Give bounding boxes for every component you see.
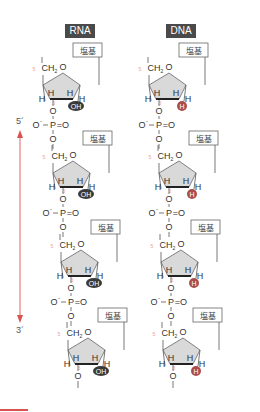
hydrogen-label: H xyxy=(73,353,80,363)
arrow-down-icon xyxy=(17,315,23,323)
hydrogen-label: H xyxy=(66,265,73,275)
ch2-subscript: 2 xyxy=(65,156,68,162)
oxygen-label: O xyxy=(167,283,174,293)
hydrogen-label: H xyxy=(49,182,56,192)
hydrogen-label: H xyxy=(154,88,161,98)
phosphorus-label: P xyxy=(168,297,174,307)
three-prime-label: 3´ xyxy=(16,325,24,335)
oxygen-label: O xyxy=(155,106,162,116)
five-prime-label: 5´ xyxy=(16,116,24,126)
h-label: H xyxy=(179,103,184,110)
ring-oxygen-label: O xyxy=(179,327,186,337)
phosphorus-label: P xyxy=(60,208,66,218)
hydrogen-label: H xyxy=(77,176,84,186)
minus-sign: - xyxy=(40,118,42,124)
h-label: H xyxy=(191,280,196,287)
carbon-5-label: 5 xyxy=(33,66,36,72)
o-minus-label: O xyxy=(42,208,49,218)
phosphorus-label: P xyxy=(68,297,74,307)
carbon-5-label: 5 xyxy=(51,243,54,249)
oh-label: OH xyxy=(81,191,92,198)
hydrogen-label: H xyxy=(57,271,64,281)
ch2-subscript: 2 xyxy=(161,68,164,74)
ch2-subscript: 2 xyxy=(171,156,174,162)
base-label: 塩基 xyxy=(80,46,96,56)
o-minus-label: O xyxy=(32,120,39,130)
oxygen-label: O xyxy=(49,134,56,144)
hydrogen-label: H xyxy=(48,88,55,98)
oxygen-label: O xyxy=(155,134,162,144)
double-oxygen-label: =O xyxy=(163,120,175,130)
phosphorus-label: P xyxy=(156,120,162,130)
hydrogen-label: H xyxy=(155,182,162,192)
hydrogen-label: H xyxy=(145,94,152,104)
o-minus-label: O xyxy=(148,208,155,218)
o-minus-label: O xyxy=(138,120,145,130)
hydrogen-label: H xyxy=(173,88,180,98)
base-label: 塩基 xyxy=(198,223,214,233)
oxygen-label: O xyxy=(59,222,66,232)
base-label: 塩基 xyxy=(90,134,106,144)
minus-sign: - xyxy=(146,118,148,124)
ch2-label: CH xyxy=(60,240,73,250)
oxygen-label: O xyxy=(74,371,81,381)
o-minus-label: O xyxy=(50,297,57,307)
arrow-up-icon xyxy=(17,130,23,138)
oh-label: OH xyxy=(89,280,100,287)
carbon-5-label: 5 xyxy=(139,66,142,72)
minus-sign: - xyxy=(58,295,60,301)
hydrogen-label: H xyxy=(168,353,175,363)
ring-oxygen-label: O xyxy=(175,150,182,160)
ring-oxygen-label: O xyxy=(77,239,84,249)
double-oxygen-label: =O xyxy=(173,208,185,218)
oxygen-label: O xyxy=(167,311,174,321)
minus-sign: - xyxy=(50,206,52,212)
carbon-5-label: 5 xyxy=(153,331,156,337)
carbon-5-label: 5 xyxy=(43,154,46,160)
hydrogen-label: H xyxy=(64,359,71,369)
ch2-label: CH xyxy=(162,328,175,338)
carbon-5-label: 5 xyxy=(151,243,154,249)
double-oxygen-label: =O xyxy=(75,297,87,307)
base-label: 塩基 xyxy=(186,46,202,56)
hydrogen-label: H xyxy=(195,182,202,192)
double-oxygen-label: =O xyxy=(175,297,187,307)
hydrogen-label: H xyxy=(199,359,206,369)
oxygen-label: O xyxy=(165,222,172,232)
hydrogen-label: H xyxy=(187,353,194,363)
o-minus-label: O xyxy=(150,297,157,307)
base-label: 塩基 xyxy=(98,223,114,233)
h-label: H xyxy=(189,191,194,198)
ring-oxygen-label: O xyxy=(165,62,172,72)
ring-oxygen-label: O xyxy=(177,239,184,249)
ring-oxygen-label: O xyxy=(84,327,91,337)
base-label: 塩基 xyxy=(196,134,212,144)
minus-sign: - xyxy=(158,295,160,301)
base-label: 塩基 xyxy=(200,311,216,321)
ch2-label: CH xyxy=(160,240,173,250)
oxygen-label: O xyxy=(67,283,74,293)
oh-label: OH xyxy=(96,368,107,375)
nucleic-acid-structure-diagram: 5CH2O塩基HHHH3OHOO-P=OO5CH2O塩基HHHH3OHOO-P=… xyxy=(0,0,260,412)
ch2-subscript: 2 xyxy=(55,68,58,74)
hydrogen-label: H xyxy=(58,176,65,186)
accent-bar xyxy=(0,409,28,411)
carbon-5-label: 5 xyxy=(58,331,61,337)
ring-oxygen-label: O xyxy=(59,62,66,72)
ch2-label: CH xyxy=(67,328,80,338)
base-label: 塩基 xyxy=(105,311,121,321)
ch2-subscript: 2 xyxy=(73,245,76,251)
hydrogen-label: H xyxy=(157,271,164,281)
hydrogen-label: H xyxy=(185,94,192,104)
ch2-label: CH xyxy=(42,63,55,73)
hydrogen-label: H xyxy=(185,265,192,275)
hydrogen-label: H xyxy=(197,271,204,281)
ch2-subscript: 2 xyxy=(175,333,178,339)
hydrogen-label: H xyxy=(92,353,99,363)
ch2-label: CH xyxy=(158,151,171,161)
oxygen-label: O xyxy=(67,311,74,321)
double-oxygen-label: =O xyxy=(57,120,69,130)
oxygen-label: O xyxy=(49,106,56,116)
minus-sign: - xyxy=(156,206,158,212)
phosphorus-label: P xyxy=(166,208,172,218)
